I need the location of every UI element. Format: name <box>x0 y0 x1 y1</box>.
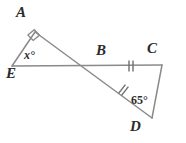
vertex-label-A: A <box>16 5 26 20</box>
figure-canvas <box>0 0 186 143</box>
tick-marks-BC <box>129 61 133 72</box>
angle-label-65: 65° <box>131 94 148 106</box>
vertex-label-E: E <box>6 66 16 81</box>
angle-label-x: x° <box>24 49 35 61</box>
vertex-label-B: B <box>96 43 106 58</box>
segment-CD <box>152 65 162 118</box>
vertex-label-D: D <box>130 119 141 134</box>
geometry-figure: A B C D E x° 65° <box>0 0 186 143</box>
vertex-label-C: C <box>147 41 157 56</box>
segment-EBC <box>12 65 162 66</box>
